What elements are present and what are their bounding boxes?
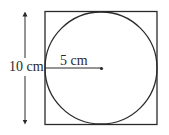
- diagram-canvas: 10 cm 5 cm: [0, 0, 169, 135]
- center-point: [100, 67, 103, 70]
- radius-label: 5 cm: [60, 53, 88, 68]
- side-length-label: 10 cm: [9, 59, 44, 74]
